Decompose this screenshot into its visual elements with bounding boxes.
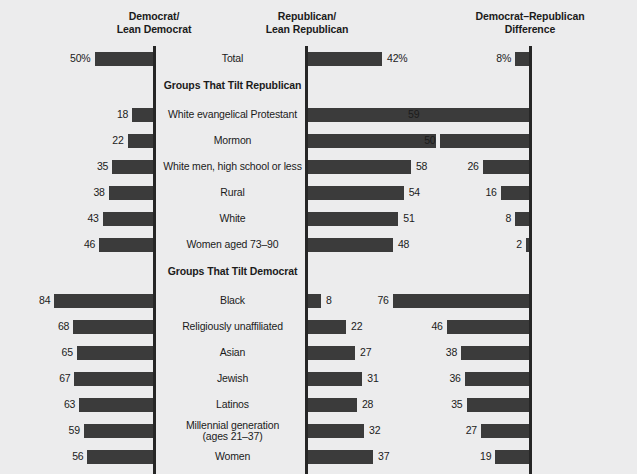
category-label: Jewish	[158, 366, 307, 392]
value-republican: 58	[416, 159, 427, 174]
bar-republican	[307, 52, 383, 66]
value-democrat: 68	[58, 319, 69, 334]
bar-difference	[447, 320, 530, 334]
chart-rows: Total50%42%8%Groups That Tilt Republican…	[0, 46, 637, 470]
category-label-line1: Asian	[220, 347, 246, 359]
bar-difference	[440, 134, 530, 148]
bar-republican	[307, 160, 411, 174]
column-header-difference-line2: Difference	[452, 23, 608, 36]
value-democrat: 59	[69, 423, 80, 438]
column-header-difference-line1: Democrat–Republican	[452, 10, 608, 23]
bar-difference	[495, 450, 529, 464]
category-label-line1: Black	[220, 295, 245, 307]
bar-democrat	[132, 108, 153, 122]
bar-difference	[465, 372, 530, 386]
chart-row: Total50%42%8%	[0, 46, 637, 72]
category-label-line1: Rural	[220, 187, 244, 199]
section-title-tilt-democrat: Groups That Tilt Democrat	[160, 265, 305, 277]
column-header-difference: Democrat–Republican Difference	[452, 10, 608, 36]
column-headers: Democrat/ Lean Democrat Republican/ Lean…	[0, 10, 637, 46]
column-header-republican: Republican/ Lean Republican	[232, 10, 382, 36]
value-republican: 32	[369, 423, 380, 438]
category-label: Rural	[158, 180, 307, 206]
bar-difference	[515, 212, 529, 226]
category-label-line2: (ages 21–37)	[186, 431, 279, 443]
value-republican: 31	[367, 371, 378, 386]
chart-row: White men, high school or less355826	[0, 154, 637, 180]
value-democrat: 46	[84, 237, 95, 252]
category-label-line1: Total	[222, 53, 243, 65]
column-header-democrat-line1: Democrat/	[78, 10, 230, 23]
bar-republican	[307, 398, 357, 412]
category-label-line1: Women	[215, 451, 250, 463]
bar-difference	[515, 52, 529, 66]
axis-line-difference	[529, 46, 532, 474]
bar-difference	[483, 160, 530, 174]
value-democrat: 50%	[70, 51, 90, 66]
value-democrat: 67	[59, 371, 70, 386]
category-label-line1: Jewish	[217, 373, 248, 385]
bar-republican	[307, 186, 404, 200]
chart-row: White evangelical Protestant187759	[0, 102, 637, 128]
value-democrat: 65	[62, 345, 73, 360]
bar-democrat	[74, 372, 153, 386]
section-heading-row: Groups That Tilt Democrat	[0, 258, 637, 288]
column-header-republican-line1: Republican/	[232, 10, 382, 23]
chart-row: Jewish673136	[0, 366, 637, 392]
category-label: White	[158, 206, 307, 232]
value-democrat: 38	[93, 185, 104, 200]
value-difference: 36	[449, 371, 460, 386]
bar-democrat	[54, 294, 153, 308]
bar-republican	[307, 424, 365, 438]
chart-row: Mormon227250	[0, 128, 637, 154]
bar-republican	[307, 134, 437, 148]
bar-democrat	[112, 160, 153, 174]
category-label-line1: Religiously unaffiliated	[182, 321, 283, 333]
category-label-line1: Latinos	[216, 399, 249, 411]
bar-democrat	[99, 238, 153, 252]
category-label: Latinos	[158, 392, 307, 418]
chart-row: Black84876	[0, 288, 637, 314]
value-difference: 76	[377, 293, 388, 308]
category-label: Asian	[158, 340, 307, 366]
value-democrat: 43	[87, 211, 98, 226]
value-republican: 28	[362, 397, 373, 412]
bar-democrat	[84, 424, 154, 438]
column-header-republican-line2: Lean Republican	[232, 23, 382, 36]
category-label-line1: Mormon	[214, 135, 252, 147]
value-difference: 16	[485, 185, 496, 200]
value-republican: 8	[326, 293, 332, 308]
category-label: Total	[158, 46, 307, 72]
bar-democrat	[103, 212, 154, 226]
category-label-line1: White men, high school or less	[163, 161, 301, 173]
axis-line-democrat	[153, 46, 156, 474]
column-header-democrat-line2: Lean Democrat	[78, 23, 230, 36]
value-difference: 35	[451, 397, 462, 412]
value-difference: 26	[467, 159, 478, 174]
value-difference: 19	[480, 449, 491, 464]
value-difference: 50	[424, 133, 435, 148]
category-label: Women aged 73–90	[158, 232, 307, 258]
chart-row: Women aged 73–9046482	[0, 232, 637, 258]
chart-row: Women563719	[0, 444, 637, 470]
category-label: Mormon	[158, 128, 307, 154]
bar-democrat	[128, 134, 154, 148]
category-label-line1: Women aged 73–90	[187, 239, 279, 251]
bar-difference	[423, 108, 529, 122]
category-label-line1: White evangelical Protestant	[168, 109, 297, 121]
bar-difference	[481, 424, 530, 438]
value-republican: 22	[351, 319, 362, 334]
value-difference: 46	[431, 319, 442, 334]
value-republican: 42%	[387, 51, 407, 66]
value-democrat: 63	[64, 397, 75, 412]
value-democrat: 22	[112, 133, 123, 148]
bar-republican	[307, 346, 356, 360]
category-label: White men, high school or less	[158, 154, 307, 180]
bar-democrat	[77, 346, 154, 360]
bar-difference	[467, 398, 530, 412]
bar-republican	[307, 238, 393, 252]
bar-difference	[461, 346, 529, 360]
value-republican: 51	[403, 211, 414, 226]
bar-democrat	[95, 52, 154, 66]
